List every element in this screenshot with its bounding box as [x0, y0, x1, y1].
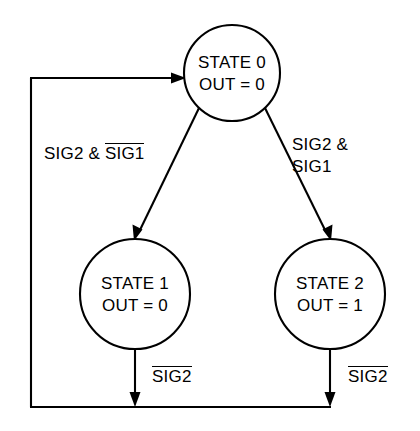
edge-label-not-sig2-right: SIG2: [348, 366, 388, 387]
arrowhead-state2-to-rail: [325, 392, 336, 407]
edge-label-state1-to-state0: SIG2: [152, 366, 192, 388]
edge-label-state2-to-state0: SIG2: [348, 366, 388, 388]
edge-label-prefix-sig2: SIG2 &: [44, 144, 105, 163]
state-diagram-canvas: STATE 0 OUT = 0 STATE 1 OUT = 0 STATE 2 …: [0, 0, 420, 431]
state1-label-name: STATE 1: [101, 274, 169, 293]
edge-label-not-sig2-left: SIG2: [152, 366, 192, 387]
node-state1[interactable]: STATE 1 OUT = 0: [80, 239, 190, 349]
edge-label-not-sig1: SIG1: [105, 143, 145, 164]
arrowhead-state1-to-rail: [130, 392, 141, 407]
node-state2[interactable]: STATE 2 OUT = 1: [275, 239, 385, 349]
edge-label-sig1: SIG1: [292, 156, 348, 178]
state1-label-output: OUT = 0: [102, 296, 168, 315]
state2-label-name: STATE 2: [296, 274, 364, 293]
edge-label-state0-to-state2: SIG2 &SIG1: [292, 134, 348, 178]
state0-label-output: OUT = 0: [199, 75, 265, 94]
state2-label-output: OUT = 1: [297, 296, 363, 315]
edge-label-sig2-and: SIG2 &: [292, 134, 348, 156]
state0-label-name: STATE 0: [198, 53, 266, 72]
state2-circle[interactable]: [275, 239, 385, 349]
state0-circle[interactable]: [184, 25, 280, 121]
state1-circle[interactable]: [80, 239, 190, 349]
edge-state0-to-state1: [139, 108, 199, 232]
edge-label-state0-to-state1: SIG2 & SIG1: [44, 143, 144, 165]
node-state0[interactable]: STATE 0 OUT = 0: [184, 25, 280, 121]
